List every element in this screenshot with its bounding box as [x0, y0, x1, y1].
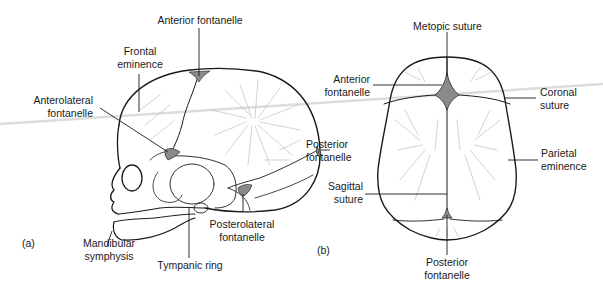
- label-text: fontanelle: [306, 151, 366, 164]
- label-text: (a): [22, 237, 35, 250]
- panel-b-tag: (b): [317, 244, 330, 257]
- label-text: Anterolateral: [15, 94, 93, 107]
- label-tympanic-ring: Tympanic ring: [150, 259, 230, 272]
- label-posterolateral-fontanelle: Posterolateral fontanelle: [202, 218, 282, 244]
- label-posterior-fontanelle-a: Posterior fontanelle: [306, 138, 366, 164]
- label-text: Frontal: [110, 45, 170, 58]
- label-text: (b): [317, 244, 330, 257]
- label-text: Parietal: [541, 147, 601, 160]
- label-mandibular-symphysis: Mandibular symphysis: [74, 237, 144, 263]
- anterior-fontanelle-lateral: [189, 71, 210, 82]
- label-text: Posterior: [417, 256, 477, 269]
- label-text: fontanelle: [310, 86, 370, 99]
- label-coronal-suture: Coronal suture: [540, 86, 600, 112]
- lateral-skull-drawing: [111, 68, 321, 240]
- label-text: suture: [540, 99, 600, 112]
- label-text: fontanelle: [417, 269, 477, 282]
- label-text: Anterior fontanelle: [145, 14, 255, 27]
- label-text: eminence: [541, 160, 601, 173]
- label-anterior-fontanelle-b: Anterior fontanelle: [310, 73, 370, 99]
- fetal-skull-diagram: Anterior fontanelle Frontal eminence Ant…: [0, 0, 603, 294]
- label-sagittal-suture: Sagittal suture: [303, 180, 363, 206]
- label-text: suture: [303, 193, 363, 206]
- label-anterior-fontanelle-a: Anterior fontanelle: [145, 14, 255, 27]
- label-metopic-suture: Metopic suture: [400, 20, 495, 33]
- label-text: Sagittal: [303, 180, 363, 193]
- label-text: Posterolateral: [202, 218, 282, 231]
- label-text: eminence: [110, 58, 170, 71]
- label-parietal-eminence: Parietal eminence: [541, 147, 601, 173]
- panel-a-tag: (a): [22, 237, 35, 250]
- label-text: Mandibular: [74, 237, 144, 250]
- label-text: Metopic suture: [400, 20, 495, 33]
- label-text: Coronal: [540, 86, 600, 99]
- label-text: Tympanic ring: [150, 259, 230, 272]
- anterior-fontanelle-superior: [435, 73, 459, 110]
- anterolateral-fontanelle-shape: [165, 148, 180, 160]
- label-text: fontanelle: [202, 231, 282, 244]
- label-frontal-eminence: Frontal eminence: [110, 45, 170, 71]
- label-text: symphysis: [74, 250, 144, 263]
- label-text: Posterior: [306, 138, 366, 151]
- label-anterolateral-fontanelle: Anterolateral fontanelle: [15, 94, 93, 120]
- label-text: fontanelle: [15, 107, 93, 120]
- label-text: Anterior: [310, 73, 370, 86]
- label-posterior-fontanelle-b: Posterior fontanelle: [417, 256, 477, 282]
